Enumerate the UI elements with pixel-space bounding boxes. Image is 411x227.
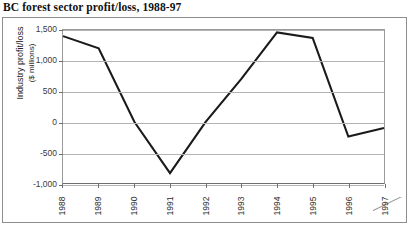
y-axis-tick-mark <box>59 123 63 124</box>
series-chart <box>63 30 384 183</box>
y-axis-tick-mark <box>59 30 63 31</box>
y-axis-tick-label: 1,500 <box>36 24 57 34</box>
series-line-industry-profit-loss <box>63 32 384 173</box>
gridline <box>63 154 384 155</box>
y-axis-tick-mark <box>59 61 63 62</box>
x-axis-tick-label: 1994 <box>272 191 282 221</box>
y-axis-tick-label: 1,000 <box>36 55 57 65</box>
x-axis-tick-label: 1997 <box>380 191 390 221</box>
y-axis-tick-label: -500 <box>40 148 57 158</box>
y-axis-tick-mark <box>59 154 63 155</box>
gridline <box>63 61 384 62</box>
x-axis-tick-label: 1996 <box>344 191 354 221</box>
y-axis-tick-labels: 1,5001,0005000-500-1,000 <box>0 29 57 184</box>
plot-area <box>62 29 385 184</box>
x-axis-tick-label: 1993 <box>236 191 246 221</box>
gridline <box>63 30 384 31</box>
x-axis-tick-label: 1988 <box>57 191 67 221</box>
x-axis-tick-mark <box>385 184 386 188</box>
gridline <box>63 123 384 124</box>
x-axis-tick-label: 1990 <box>129 191 139 221</box>
x-axis-tick-label: 1995 <box>308 191 318 221</box>
y-axis-tick-label: 500 <box>43 86 57 96</box>
y-axis-tick-label: 0 <box>52 117 57 127</box>
gridline <box>63 92 384 93</box>
y-axis-tick-label: -1,000 <box>33 179 57 189</box>
y-axis-tick-mark <box>59 92 63 93</box>
x-axis-tick-label: 1992 <box>201 191 211 221</box>
x-axis-tick-label: 1989 <box>93 191 103 221</box>
x-axis-tick-labels: 1988198919901991199219931994199519961997 <box>62 188 385 222</box>
x-axis-tick-label: 1991 <box>165 191 175 221</box>
